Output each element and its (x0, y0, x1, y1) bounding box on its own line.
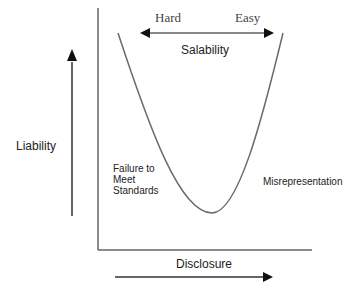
salability-label: Salability (181, 44, 229, 56)
liability-label: Liability (16, 140, 56, 152)
misrepresentation-label: Misrepresentation (263, 176, 342, 188)
hard-label: Hard (155, 12, 181, 24)
arrow-right-head-icon (264, 28, 274, 38)
arrow-up-head-icon (67, 49, 77, 61)
label-line: Standards (113, 185, 159, 196)
failure-to-meet-standards-label: Failure to Meet Standards (113, 163, 159, 196)
easy-label: Easy (235, 12, 260, 24)
arrow-left-head-icon (140, 28, 150, 38)
label-line: Meet (113, 174, 159, 185)
label-line: Failure to (113, 163, 159, 174)
arrow-right-head-icon (263, 272, 273, 282)
disclosure-label: Disclosure (176, 258, 232, 270)
